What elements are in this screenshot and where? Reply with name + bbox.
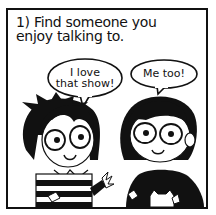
- speech-bubble-right-text: Me too!: [134, 68, 194, 79]
- bubble-line: that show!: [52, 78, 118, 89]
- comic-panel: 1) Find someone you enjoy talking to. I …: [6, 8, 208, 209]
- right-character: [120, 96, 204, 207]
- panel-caption: 1) Find someone you enjoy talking to.: [16, 15, 196, 43]
- bubble-line: Me too!: [134, 68, 194, 79]
- left-character: [22, 92, 114, 207]
- speech-bubble-left-text: I love that show!: [52, 67, 118, 89]
